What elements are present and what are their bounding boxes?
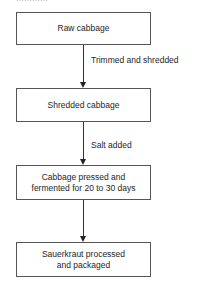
connector-line: [83, 200, 84, 236]
connector-line: [83, 122, 84, 159]
node-label-line2: fermented for 20 to 30 days: [32, 183, 136, 194]
connector-line: [83, 45, 84, 82]
node-raw-cabbage: Raw cabbage: [16, 12, 151, 45]
cutoff-caption: …………: [16, 0, 48, 3]
node-label: Shredded cabbage: [48, 100, 120, 111]
node-sauerkraut-packaged: Sauerkraut processed and packaged: [16, 242, 151, 277]
node-shredded-cabbage: Shredded cabbage: [16, 88, 151, 122]
node-label-line1: Sauerkraut processed: [42, 249, 125, 260]
node-label-line2: and packaged: [42, 260, 125, 271]
node-label-line1: Cabbage pressed and: [32, 172, 136, 183]
edge-label-salt: Salt added: [91, 140, 132, 150]
edge-label-trimmed: Trimmed and shredded: [91, 55, 179, 65]
node-label: Raw cabbage: [58, 23, 110, 34]
node-pressed-fermented: Cabbage pressed and fermented for 20 to …: [16, 165, 151, 200]
